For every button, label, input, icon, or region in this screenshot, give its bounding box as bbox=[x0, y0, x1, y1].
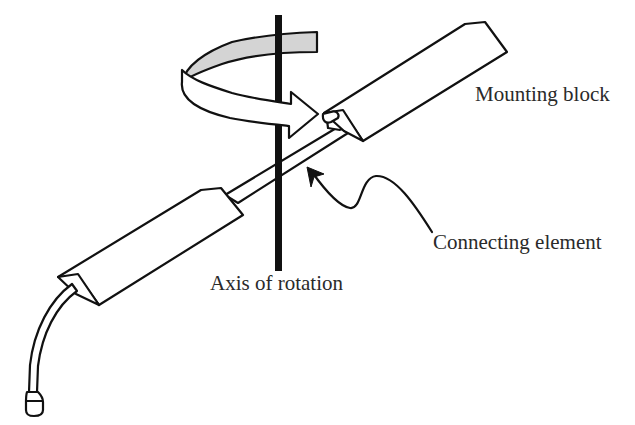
rotation-arrow-front-band bbox=[182, 70, 318, 138]
rotation-diagram: Mounting block Connecting element Axis o… bbox=[0, 0, 635, 425]
label-axis-of-rotation: Axis of rotation bbox=[210, 271, 343, 295]
cable bbox=[29, 284, 77, 392]
connecting-element-leader bbox=[312, 172, 432, 232]
connecting-element-rod bbox=[225, 127, 348, 203]
label-mounting-block: Mounting block bbox=[475, 82, 610, 106]
rotation-arrow-grey-band bbox=[182, 32, 317, 82]
axis-of-rotation-bar-front bbox=[275, 140, 282, 271]
cable-tip bbox=[26, 392, 43, 416]
label-connecting-element: Connecting element bbox=[433, 230, 602, 254]
